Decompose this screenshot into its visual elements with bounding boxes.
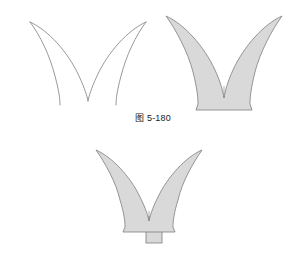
- petal-pair-filled: [166, 16, 282, 110]
- petal-pair-outline: [30, 22, 146, 105]
- figure-block-5-181: 图 5-181: [0, 132, 306, 274]
- figure-5-180-artwork: [0, 0, 306, 115]
- petal-pair-filled-stem: [96, 150, 202, 243]
- outline-right-petal-inner: [116, 22, 146, 105]
- figure-block-5-180: 图 5-180: [0, 0, 306, 132]
- outline-right-petal-outer: [88, 22, 146, 101]
- outline-left-petal-inner: [30, 22, 60, 105]
- figure-caption-5-180: 图 5-180: [0, 111, 306, 124]
- figure-page: 图 5-180 图 5-181: [0, 0, 306, 274]
- figure-5-181-artwork: [0, 132, 306, 244]
- outline-left-petal-outer: [30, 22, 88, 101]
